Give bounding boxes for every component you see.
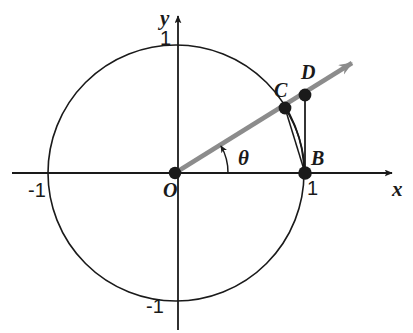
point-label-D: D <box>301 62 315 82</box>
point-O <box>169 167 181 179</box>
point-label-O: O <box>163 180 177 200</box>
point-label-B: B <box>311 148 324 168</box>
x-tick-left-label: -1 <box>28 180 46 200</box>
trig-unit-circle-figure: y x 1 -1 -1 1 O B C D θ <box>0 0 413 333</box>
point-label-C: C <box>274 80 287 100</box>
y-tick-bottom-label: -1 <box>146 296 164 316</box>
y-axis-label: y <box>160 8 169 29</box>
chord-CB <box>285 108 305 173</box>
figure-canvas <box>0 0 413 333</box>
x-axis-label: x <box>392 179 403 200</box>
point-C <box>279 102 292 115</box>
x-tick-right-label: 1 <box>307 178 318 198</box>
point-D <box>299 89 312 102</box>
angle-label-theta: θ <box>238 148 249 169</box>
y-tick-top-label: 1 <box>160 28 171 48</box>
angle-arc-theta <box>221 146 228 173</box>
